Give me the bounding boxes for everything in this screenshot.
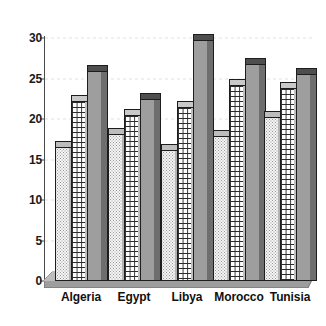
y-tick-label-5: 5 bbox=[36, 234, 42, 248]
bar-group-tunisia bbox=[264, 280, 319, 281]
bar-group-morocco bbox=[213, 280, 268, 281]
bar-tunisia-series-2 bbox=[280, 88, 295, 281]
bar-egypt-series-1 bbox=[108, 134, 123, 281]
bar-group-algeria bbox=[55, 280, 110, 281]
bar-morocco-series-3 bbox=[245, 64, 260, 281]
bar-top-face bbox=[140, 93, 161, 100]
bar-side-face bbox=[310, 74, 317, 281]
x-label-morocco: Morocco bbox=[214, 290, 263, 304]
bar-libya-series-2 bbox=[177, 107, 192, 281]
bar-top-face bbox=[245, 58, 266, 65]
y-tick-label-10: 10 bbox=[29, 193, 42, 207]
bar-side-face bbox=[101, 71, 108, 281]
bar-morocco-series-1 bbox=[213, 136, 228, 281]
x-label-tunisia: Tunisia bbox=[270, 290, 310, 304]
bar-egypt-series-3 bbox=[140, 99, 155, 281]
bar-chart: 302520151050 AlgeriaEgyptLibyaMoroccoTun… bbox=[0, 0, 326, 326]
bar-tunisia-series-1 bbox=[264, 117, 279, 281]
bar-egypt-series-2 bbox=[124, 115, 139, 281]
bar-group-libya bbox=[161, 280, 216, 281]
y-tick-label-15: 15 bbox=[29, 153, 42, 167]
y-tick-label-20: 20 bbox=[29, 112, 42, 126]
bar-top-face bbox=[87, 65, 108, 72]
y-tick-label-0: 0 bbox=[36, 274, 42, 288]
bar-top-face bbox=[296, 68, 317, 75]
bar-algeria-series-1 bbox=[55, 147, 70, 281]
plot-area: 302520151050 AlgeriaEgyptLibyaMoroccoTun… bbox=[0, 0, 326, 326]
bar-top-face bbox=[193, 34, 214, 41]
bar-tunisia-series-3 bbox=[296, 74, 311, 281]
bar-morocco-series-2 bbox=[229, 85, 244, 281]
x-label-libya: Libya bbox=[172, 290, 203, 304]
x-label-egypt: Egypt bbox=[118, 290, 151, 304]
bar-libya-series-1 bbox=[161, 150, 176, 281]
bar-libya-series-3 bbox=[193, 40, 208, 281]
x-label-algeria: Algeria bbox=[61, 290, 101, 304]
y-tick-label-30: 30 bbox=[29, 31, 42, 45]
bar-algeria-series-2 bbox=[71, 101, 86, 281]
bar-side-face bbox=[154, 99, 161, 281]
bar-algeria-series-3 bbox=[87, 71, 102, 281]
bar-group-egypt bbox=[108, 280, 163, 281]
y-tick-label-25: 25 bbox=[29, 72, 42, 86]
gridline-30 bbox=[45, 38, 313, 39]
y-axis-line bbox=[44, 36, 45, 282]
gridline-25 bbox=[45, 78, 313, 79]
